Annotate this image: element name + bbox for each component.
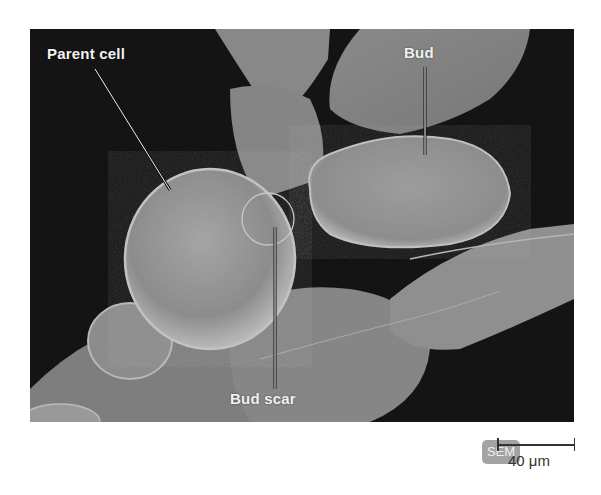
scale-bar-label: 40 μm [508, 452, 550, 469]
label-bud: Bud [404, 44, 434, 61]
sem-micrograph: Parent cell Bud Bud scar [30, 29, 574, 422]
scale-bar [497, 438, 575, 452]
scale-bar-right-tick [574, 438, 576, 451]
label-parent-cell: Parent cell [47, 45, 125, 62]
scale-bar-line [497, 444, 575, 446]
label-bud-scar: Bud scar [230, 390, 296, 407]
yeast-cells-illustration [30, 29, 574, 422]
